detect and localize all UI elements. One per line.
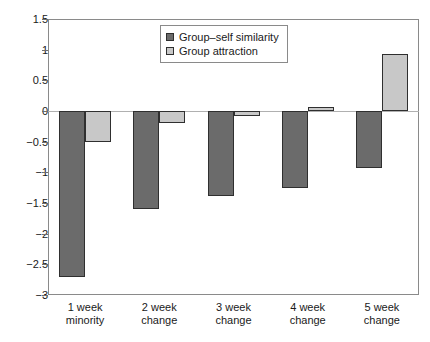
bar-group-attraction [85,111,111,142]
bar-group-self-similarity [282,111,308,188]
x-axis-tick-label: 3 week change [196,301,270,327]
bar-chart: 1.510.50−0.5−1−1.5−2−2.5−3 Group–self si… [0,0,430,342]
legend-label-group-attraction: Group attraction [179,45,258,57]
x-axis-tick-label: 1 week minority [48,301,122,327]
bar-group-attraction [308,107,334,111]
y-axis-tick-mark [42,295,48,296]
bar-group-attraction [382,54,408,111]
bar-group-self-similarity [59,111,85,277]
bar-group-self-similarity [133,111,159,209]
legend-swatch-icon-group-self-similarity [166,33,174,41]
bar-group-attraction [234,111,260,116]
x-axis-tick-label: 4 week change [271,301,345,327]
legend-swatch-icon-group-attraction [166,47,174,55]
legend-item-group-attraction: Group attraction [166,44,279,58]
chart-legend: Group–self similarity Group attraction [160,25,288,63]
legend-item-group-self-similarity: Group–self similarity [166,30,279,44]
bar-group-self-similarity [356,111,382,168]
y-axis: 1.510.50−0.5−1−1.5−2−2.5−3 [0,0,48,342]
x-axis-tick-label: 5 week change [345,301,419,327]
legend-label-group-self-similarity: Group–self similarity [179,31,279,43]
x-axis-tick-label: 2 week change [122,301,196,327]
bar-group-attraction [159,111,185,123]
bar-group-self-similarity [208,111,234,196]
